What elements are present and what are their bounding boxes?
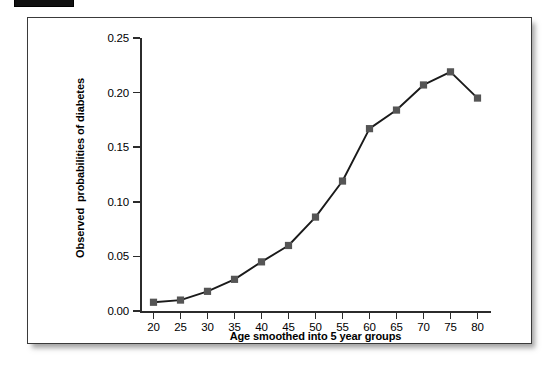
x-axis-title: Age smoothed into 5 year groups (140, 330, 491, 342)
data-series (28, 18, 531, 343)
data-point-marker (420, 81, 427, 88)
figure-frame: Observed probabilities of diabetes 0.000… (27, 17, 532, 344)
data-point-marker (231, 276, 238, 283)
plot-area: Observed probabilities of diabetes 0.000… (28, 18, 531, 343)
data-point-marker (177, 296, 184, 303)
data-point-marker (366, 125, 373, 132)
data-point-marker (285, 242, 292, 249)
series-line (154, 72, 478, 302)
data-point-marker (258, 258, 265, 265)
data-point-marker (339, 177, 346, 184)
series-markers (150, 68, 481, 306)
data-point-marker (150, 299, 157, 306)
data-point-marker (204, 288, 211, 295)
data-point-marker (312, 213, 319, 220)
scan-artifact-bar (14, 0, 74, 7)
data-point-marker (447, 68, 454, 75)
data-point-marker (474, 94, 481, 101)
data-point-marker (393, 106, 400, 113)
